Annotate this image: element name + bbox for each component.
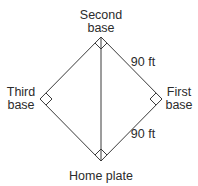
label-second-base-line1: Second — [80, 8, 122, 22]
label-third-base-line1: Third — [7, 85, 36, 99]
label-side-length-bottom-right: 90 ft — [131, 127, 156, 141]
label-home-plate: Home plate — [69, 169, 133, 183]
right-angle-marker-first — [150, 93, 156, 105]
side-home-to-third — [40, 99, 101, 161]
label-side-length-top-right: 90 ft — [131, 55, 156, 69]
label-second-base-line2: base — [87, 21, 114, 35]
label-third-base-line2: base — [7, 98, 34, 112]
label-first-base-line1: First — [167, 85, 192, 99]
label-first-base-line2: base — [165, 98, 192, 112]
right-angle-marker-third — [46, 93, 52, 105]
baseball-diamond-diagram: Second base Third base First base Home p… — [0, 0, 198, 186]
side-third-to-second — [40, 37, 101, 99]
